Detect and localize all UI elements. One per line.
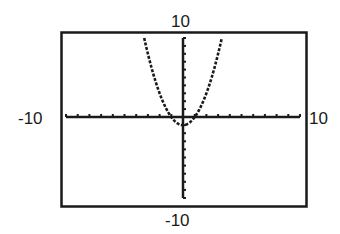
xmax-label: 10 [309,110,328,127]
ymin-label: -10 [165,212,190,229]
xmin-label: -10 [18,110,43,127]
graph-canvas [0,0,340,234]
ymax-label: 10 [171,13,190,30]
